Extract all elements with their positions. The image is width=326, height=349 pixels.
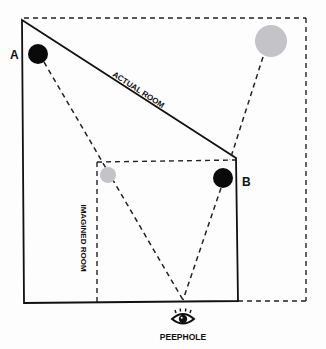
- diagram-canvas: A B ACTUAL ROOM IMAGINED ROOM PEEPHOLE: [0, 0, 326, 349]
- sight-line-far: [230, 57, 263, 160]
- ames-room-diagram: A B ACTUAL ROOM IMAGINED ROOM PEEPHOLE: [0, 0, 326, 349]
- sight-line-a: [44, 62, 183, 300]
- actual-room-outline: [22, 20, 238, 303]
- sight-line-b: [183, 188, 221, 300]
- eye-icon: [172, 309, 194, 324]
- object-a-projected: [255, 25, 287, 57]
- outer-dashed-rectangle: [24, 18, 306, 301]
- label-a: A: [10, 48, 19, 62]
- label-peephole: PEEPHOLE: [160, 332, 207, 342]
- label-imagined-room: IMAGINED ROOM: [79, 204, 88, 271]
- label-actual-room: ACTUAL ROOM: [111, 70, 166, 110]
- label-b: B: [242, 175, 251, 189]
- object-b: [213, 168, 233, 188]
- object-b-projected: [100, 167, 116, 183]
- object-a: [28, 44, 48, 64]
